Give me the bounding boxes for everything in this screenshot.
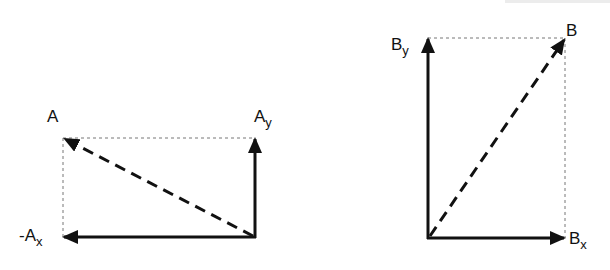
- vector-a-x-label-sub: x: [36, 234, 43, 249]
- vector-a-label-text: A: [47, 107, 58, 126]
- vector-a-x-label-main: A: [25, 226, 36, 245]
- vector-b-resultant-arrow: [430, 40, 564, 236]
- vector-b-group: [427, 38, 565, 239]
- vector-b-label: B: [566, 22, 577, 39]
- vector-a-y-label-sub: y: [265, 115, 272, 130]
- vector-b-x-label-main: B: [569, 229, 580, 248]
- vector-a-y-component-label: Ay: [254, 108, 272, 129]
- vector-b-x-label-sub: x: [580, 237, 587, 252]
- vector-a-group: [63, 138, 256, 238]
- vector-b-y-label-sub: y: [402, 43, 409, 58]
- vector-a-x-component-label: -Ax: [19, 227, 43, 248]
- vector-b-y-label-main: B: [391, 35, 402, 54]
- vector-b-y-component-label: By: [391, 36, 409, 57]
- vector-b-label-text: B: [566, 21, 577, 40]
- vector-a-resultant-arrow: [65, 139, 253, 236]
- vector-diagram-canvas: [0, 0, 610, 270]
- vector-a-label: A: [47, 108, 58, 125]
- vector-b-x-component-label: Bx: [569, 230, 587, 251]
- vector-a-y-label-main: A: [254, 107, 265, 126]
